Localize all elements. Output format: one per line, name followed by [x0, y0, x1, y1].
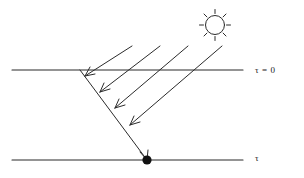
arrowhead-group	[85, 67, 140, 125]
scattered-beam-group	[80, 70, 148, 160]
tau-label: τ	[255, 154, 259, 163]
tau-zero-label: τ = 0	[255, 66, 276, 75]
sun-rays-icon	[200, 10, 231, 41]
surface-point-dot	[142, 155, 151, 164]
radiative-transfer-diagram: τ = 0 τ	[0, 0, 304, 178]
scattered-beam	[80, 70, 147, 160]
level-lines	[12, 70, 243, 160]
incident-ray-3	[115, 46, 188, 108]
incident-ray-2	[100, 46, 160, 92]
incident-ray-group	[85, 46, 222, 125]
sun-disc-icon	[206, 16, 225, 35]
incident-ray-1	[85, 46, 132, 76]
diagram-canvas	[0, 0, 304, 178]
sun-icon	[200, 10, 231, 41]
